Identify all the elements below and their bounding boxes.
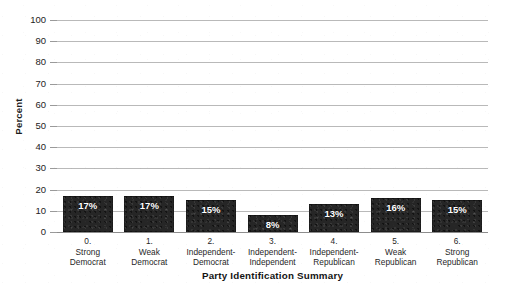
x-axis-category-label: 3.Independent-Independent [242, 236, 304, 268]
x-axis-category-label: 6.StrongRepublican [426, 236, 488, 268]
category-name-line: Independent [242, 257, 304, 268]
bar: 8% [248, 215, 298, 232]
x-axis-category-label: 1.WeakDemocrat [119, 236, 181, 268]
y-tick-label-40: 40 [35, 142, 46, 152]
category-index: 6. [426, 236, 488, 247]
category-index: 3. [242, 236, 304, 247]
category-name-line: Strong [57, 247, 119, 258]
y-tick-mark-0 [50, 232, 57, 233]
bar: 17% [124, 196, 174, 232]
bars-layer: 17%17%15%8%13%16%15% [57, 20, 488, 232]
y-tick-mark-30 [50, 168, 57, 169]
x-axis-title: Party Identification Summary [57, 270, 488, 281]
category-name-line: Democrat [57, 257, 119, 268]
y-tick-label-80: 80 [35, 58, 46, 68]
category-index: 4. [303, 236, 365, 247]
y-tick-mark-10 [50, 211, 57, 212]
category-name-line: Democrat [180, 257, 242, 268]
category-name-line: Independent- [180, 247, 242, 258]
bar: 15% [432, 200, 482, 232]
y-tick-label-100: 100 [30, 15, 46, 25]
category-name-line: Independent- [303, 247, 365, 258]
bar-value-label: 17% [124, 201, 174, 211]
bar: 15% [186, 200, 236, 232]
bar-value-label: 17% [63, 201, 113, 211]
y-tick-mark-50 [50, 126, 57, 127]
category-index: 2. [180, 236, 242, 247]
category-index: 1. [119, 236, 181, 247]
category-index: 5. [365, 236, 427, 247]
bar-chart: Percent 1009080706050403020100 17%17%15%… [0, 0, 505, 293]
bar: 16% [371, 198, 421, 232]
x-axis-category-label: 5.WeakRepublican [365, 236, 427, 268]
bar-value-label: 15% [432, 205, 482, 215]
category-name-line: Republican [426, 257, 488, 268]
x-axis-category-label: 0.StrongDemocrat [57, 236, 119, 268]
category-name-line: Republican [365, 257, 427, 268]
category-name-line: Republican [303, 257, 365, 268]
y-axis-title-text: Percent [13, 98, 24, 134]
y-tick-mark-100 [50, 20, 57, 21]
category-name-line: Weak [119, 247, 181, 258]
y-tick-mark-20 [50, 190, 57, 191]
category-name-line: Independent- [242, 247, 304, 258]
x-axis-category-label: 2.Independent-Democrat [180, 236, 242, 268]
y-tick-mark-40 [50, 147, 57, 148]
y-tick-label-70: 70 [35, 79, 46, 89]
plot-area: 1009080706050403020100 17%17%15%8%13%16%… [57, 20, 488, 232]
x-axis-category-label: 4.Independent-Republican [303, 236, 365, 268]
gridline-0 [57, 232, 488, 233]
y-axis-title: Percent [8, 0, 28, 232]
bar-value-label: 16% [371, 203, 421, 213]
y-tick-label-0: 0 [41, 227, 46, 237]
bar: 13% [309, 204, 359, 232]
category-name-line: Democrat [119, 257, 181, 268]
y-tick-mark-80 [50, 62, 57, 63]
bar: 17% [63, 196, 113, 232]
y-tick-label-90: 90 [35, 36, 46, 46]
y-tick-label-60: 60 [35, 100, 46, 110]
bar-value-label: 8% [248, 220, 298, 230]
x-axis-category-labels: 0.StrongDemocrat1.WeakDemocrat2.Independ… [57, 236, 488, 268]
y-tick-label-50: 50 [35, 121, 46, 131]
y-tick-label-30: 30 [35, 164, 46, 174]
bar-value-label: 15% [186, 205, 236, 215]
category-name-line: Weak [365, 247, 427, 258]
category-name-line: Strong [426, 247, 488, 258]
category-index: 0. [57, 236, 119, 247]
y-tick-mark-90 [50, 41, 57, 42]
y-tick-mark-60 [50, 105, 57, 106]
y-tick-label-20: 20 [35, 185, 46, 195]
y-tick-mark-70 [50, 84, 57, 85]
y-tick-label-10: 10 [35, 206, 46, 216]
bar-value-label: 13% [309, 209, 359, 219]
